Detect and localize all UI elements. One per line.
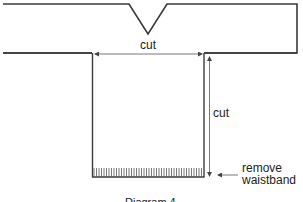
diagram-caption: Diagram 4 bbox=[125, 196, 176, 202]
horizontal-cut-label: cut bbox=[140, 38, 157, 52]
vertical-cut-label: cut bbox=[213, 106, 230, 120]
garment-cutting-diagram: cut cut remove waistband Diagram 4 bbox=[0, 0, 303, 202]
remove-waistband-label-line2: waistband bbox=[241, 173, 296, 187]
waistband-ribbing bbox=[94, 168, 202, 177]
